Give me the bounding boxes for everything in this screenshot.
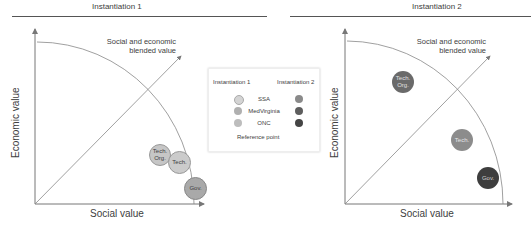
legend-swatch-i2-ssa bbox=[295, 95, 303, 103]
diagonal-label-line2: blended value bbox=[410, 46, 486, 55]
bubble-i1-gov: Gov. bbox=[184, 177, 207, 200]
legend-row-ssa: SSA bbox=[209, 95, 319, 105]
legend-row-onc: ONC bbox=[209, 119, 319, 129]
legend-label-medvirginia: MedVirginia bbox=[239, 108, 289, 114]
bubble-label: Tech. bbox=[172, 159, 186, 166]
bubble-label: Tech. bbox=[153, 148, 167, 155]
bubble-label: Gov. bbox=[189, 185, 201, 192]
diagonal-label-line1: Social and economic bbox=[100, 37, 176, 46]
bubble-label: Gov. bbox=[482, 175, 494, 182]
legend-label-onc: ONC bbox=[239, 120, 289, 126]
diagonal-label-line2: blended value bbox=[100, 46, 176, 55]
legend-swatch-i2-onc bbox=[295, 119, 303, 127]
legend-header-instantiation-1: Instantiation 1 bbox=[213, 79, 250, 85]
panel-1-x-axis-label: Social value bbox=[90, 208, 144, 219]
legend-reference-point-label: Reference point bbox=[237, 134, 279, 140]
panel-2-diagonal-label: Social and economic blended value bbox=[410, 37, 486, 55]
legend-label-ssa: SSA bbox=[239, 96, 289, 102]
bubble-i2-gov: Gov. bbox=[477, 167, 499, 189]
legend-header-instantiation-2: Instantiation 2 bbox=[277, 79, 314, 85]
bubble-label: Org. bbox=[396, 82, 410, 89]
bubble-i2-tech: Tech. bbox=[451, 129, 473, 151]
panel-1-axes bbox=[35, 29, 204, 204]
panel-2-y-axis-label: Economic value bbox=[329, 87, 340, 158]
legend: Instantiation 1 Instantiation 2 SSA MedV… bbox=[208, 68, 320, 152]
panel-1-y-axis-label: Economic value bbox=[10, 87, 21, 158]
legend-swatch-i2-medvirginia bbox=[295, 107, 303, 115]
panel-2-x-axis-label: Social value bbox=[400, 208, 454, 219]
bubble-label: Org. bbox=[153, 155, 167, 162]
panel-1-diagonal-label: Social and economic blended value bbox=[100, 37, 176, 55]
diagonal-label-line1: Social and economic bbox=[410, 37, 486, 46]
bubble-i2-tech-org: Tech.Org. bbox=[392, 71, 414, 93]
bubble-i1-tech: Tech. bbox=[168, 151, 191, 174]
bubble-label: Tech. bbox=[455, 137, 469, 144]
bubble-label: Tech. bbox=[396, 75, 410, 82]
legend-row-medvirginia: MedVirginia bbox=[209, 107, 319, 117]
